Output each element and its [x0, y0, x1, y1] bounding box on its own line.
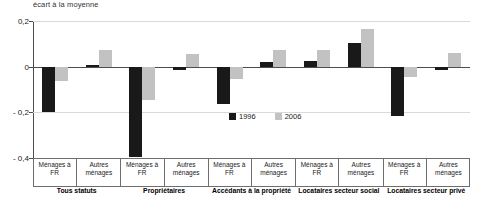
x-group-name-2: Accédants à la propriété	[208, 187, 295, 195]
x-category-label-2-1: Autresménages	[251, 158, 295, 186]
x-group-4: Ménages àFRAutresménagesLocataires secte…	[383, 158, 470, 202]
x-group-1: Ménages àFRAutresménagesPropriétaires	[120, 158, 207, 202]
x-group-name-1: Propriétaires	[120, 187, 207, 195]
bar-1996-g1-c1	[173, 67, 186, 70]
x-group-cells-0: Ménages àFRAutresménages	[33, 158, 120, 186]
x-category-label-1-1: Autresménages	[164, 158, 208, 186]
y-axis-title: écart à la moyenne	[33, 0, 99, 9]
y-axis-tick-labels: 0,20- 0,2- 0,4	[0, 0, 31, 202]
bar-1996-g1-c0	[129, 67, 142, 157]
y-tick-label-0: 0,2	[18, 17, 29, 26]
x-group-cells-1: Ménages àFRAutresménages	[120, 158, 207, 186]
plot-area	[33, 21, 470, 158]
x-group-separator-3	[295, 158, 296, 186]
bar-2006-g4-c1	[448, 53, 461, 67]
legend-label-1996: 1996	[239, 112, 256, 121]
gridline-0	[33, 21, 470, 22]
legend-swatch-2006	[275, 113, 282, 120]
x-group-separator-2	[208, 158, 209, 186]
x-category-label-2-0: Ménages àFR	[208, 158, 251, 186]
bar-1996-g2-c0	[217, 67, 230, 105]
x-group-separator-end	[469, 158, 470, 186]
x-category-label-3-1: Autresménages	[338, 158, 382, 186]
chart-container: écart à la moyenne 0,20- 0,2- 0,4 1996 2…	[0, 0, 489, 202]
legend-item-1996: 1996	[229, 112, 256, 121]
x-group-separator-4	[383, 158, 384, 186]
bar-1996-g3-c0	[304, 61, 317, 67]
x-group-name-0: Tous statuts	[33, 187, 120, 195]
bar-2006-g1-c0	[142, 67, 155, 100]
bar-1996-g2-c1	[260, 62, 273, 67]
x-category-label-1-0: Ménages àFR	[120, 158, 163, 186]
x-category-label-0-1: Autresménages	[76, 158, 120, 186]
bar-2006-g2-c0	[230, 67, 243, 80]
bar-2006-g4-c0	[404, 67, 417, 77]
x-category-label-0-0: Ménages àFR	[33, 158, 76, 186]
x-group-separator-1	[120, 158, 121, 186]
x-axis-category-table: Ménages àFRAutresménagesTous statutsMéna…	[33, 158, 470, 202]
bar-2006-g1-c1	[186, 54, 199, 67]
chart-legend: 1996 2006	[229, 112, 315, 121]
x-group-cells-4: Ménages àFRAutresménages	[383, 158, 470, 186]
x-category-label-4-0: Ménages àFR	[383, 158, 426, 186]
legend-swatch-1996	[229, 113, 236, 120]
bar-1996-g4-c0	[391, 67, 404, 116]
bar-2006-g3-c1	[361, 29, 374, 67]
x-group-name-4: Locataires secteur privé	[383, 187, 470, 195]
x-category-label-3-0: Ménages àFR	[295, 158, 338, 186]
x-category-label-4-1: Autresménages	[426, 158, 470, 186]
bar-1996-g0-c0	[42, 67, 55, 113]
y-tick-label-2: - 0,2	[13, 108, 29, 117]
bar-2006-g3-c0	[317, 50, 330, 67]
x-group-cells-3: Ménages àFRAutresménages	[295, 158, 382, 186]
x-group-2: Ménages àFRAutresménagesAccédants à la p…	[208, 158, 295, 202]
bar-1996-g3-c1	[348, 43, 361, 67]
bar-1996-g0-c1	[86, 65, 99, 66]
bar-1996-g4-c1	[435, 67, 448, 70]
x-group-separator-start	[33, 158, 34, 186]
bar-2006-g2-c1	[273, 50, 286, 67]
bar-2006-g0-c1	[99, 50, 112, 67]
legend-item-2006: 2006	[275, 112, 302, 121]
x-group-0: Ménages àFRAutresménagesTous statuts	[33, 158, 120, 202]
x-group-3: Ménages àFRAutresménagesLocataires secte…	[295, 158, 382, 202]
legend-label-2006: 2006	[285, 112, 302, 121]
x-group-name-3: Locataires secteur social	[295, 187, 382, 195]
bar-2006-g0-c0	[55, 67, 68, 82]
y-tick-label-3: - 0,4	[13, 154, 29, 163]
x-group-cells-2: Ménages àFRAutresménages	[208, 158, 295, 186]
